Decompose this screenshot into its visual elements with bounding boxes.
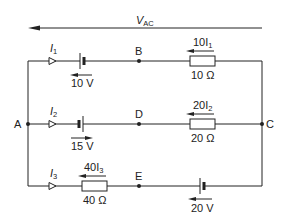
node-b-dot [137, 59, 141, 63]
current-arrow-2-icon [49, 121, 56, 128]
current-label-2: I2 [50, 105, 57, 119]
node-d-label: D [135, 108, 143, 120]
battery-3-emf-arrow [188, 197, 212, 201]
node-b-label: B [135, 45, 142, 57]
resistor-1-label: 10 Ω [191, 69, 215, 81]
vac-label: VAC [136, 14, 154, 28]
wires [28, 61, 262, 186]
current-label-3: I3 [50, 167, 57, 181]
battery-2-icon [79, 116, 83, 132]
node-e-label: E [135, 170, 142, 182]
node-d-dot [137, 122, 141, 126]
current-arrow-1-icon [49, 58, 56, 65]
node-e-dot [137, 184, 141, 188]
current-label-1: I1 [50, 42, 57, 56]
node-c-dot [260, 122, 264, 126]
node-a-label: A [14, 118, 22, 130]
resistor-2-icon [190, 119, 215, 129]
node-c-label: C [266, 118, 274, 130]
current-arrow-3-icon [49, 183, 56, 190]
battery-1-icon [80, 53, 84, 69]
resistor-3-label: 40 Ω [83, 194, 107, 206]
resistor-3-icon [82, 181, 107, 191]
resistor-3-drop-label: 40I3 [84, 161, 103, 175]
battery-1-label: 10 V [71, 77, 94, 89]
battery-2-label: 15 V [71, 140, 94, 152]
resistor-2-drop-label: 20I2 [193, 99, 212, 113]
resistor-1-drop-label: 10I1 [193, 36, 212, 50]
circuit-diagram: VAC I1 I2 I3 10 V [0, 0, 287, 221]
battery-3-label: 20 V [191, 202, 214, 214]
resistor-2-label: 20 Ω [191, 132, 215, 144]
node-a-dot [26, 122, 30, 126]
battery-3-icon [200, 178, 204, 194]
resistor-1-icon [190, 56, 215, 66]
